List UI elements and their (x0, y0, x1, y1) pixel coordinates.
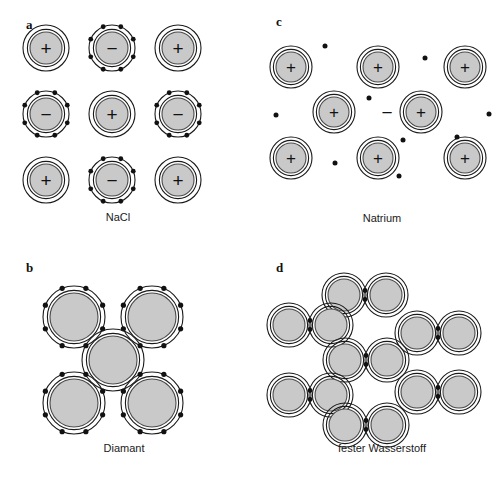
h2-molecule-right-lower-bond-electron-1 (436, 385, 441, 390)
carbon-top-left-electron-5 (60, 343, 65, 348)
panel-c-letter: c (276, 14, 282, 29)
carbon-top-right-electron-1 (161, 286, 166, 291)
carbon-bottom-left-electron-5 (60, 429, 65, 434)
cation-1: + (23, 25, 69, 71)
panel-c-caption: Natrium (363, 212, 402, 224)
sodium-ion-8: + (444, 137, 486, 179)
carbon-top-left-electron-2 (100, 303, 105, 308)
sodium-ion-7: + (357, 137, 399, 179)
cation-3-charge-label: + (106, 104, 117, 125)
panel-c-free-electron-4 (367, 96, 372, 101)
anion-1-electron-8 (101, 24, 106, 29)
carbon-top-left-electron-1 (83, 286, 88, 291)
h2-molecule-center-bond-electron-2 (364, 362, 369, 367)
carbon-top-left-electron-7 (43, 303, 48, 308)
anion-1-electron-6 (88, 54, 93, 59)
h2-molecule-right-upper-bond-electron-1 (436, 326, 441, 331)
carbon-top-right-electron-8 (138, 286, 143, 291)
h2-molecule-left-lower-bond-electron-2 (308, 397, 313, 402)
h2-molecule-bottom-center-bond-electron-1 (364, 418, 369, 423)
sodium-ion-6: + (270, 137, 312, 179)
carbon-bottom-left-electron-3 (100, 412, 105, 417)
cation-4-charge-label: + (40, 170, 51, 191)
anion-4-electron-8 (101, 156, 106, 161)
anion-4-charge-label: − (106, 170, 117, 191)
sodium-ion-6-charge-label: + (286, 149, 296, 168)
anion-3-electron-6 (154, 120, 159, 125)
anion-1-electron-1 (118, 24, 123, 29)
carbon-top-left-core (50, 293, 98, 341)
panel-b-letter: b (26, 260, 33, 275)
carbon-bottom-left-electron-6 (43, 412, 48, 417)
carbon-bottom-left-electron-1 (83, 372, 88, 377)
anion-2-electron-3 (65, 120, 70, 125)
carbon-top-right-electron-3 (178, 326, 183, 331)
anion-2-electron-8 (35, 90, 40, 95)
figure-root: a+−+−+−+−+NaClbDiamantc++++++++−Natriumd… (0, 0, 504, 490)
anion-2-electron-5 (35, 133, 40, 138)
sodium-ion-1-charge-label: + (286, 58, 296, 77)
h2-molecule-center-left-core (329, 344, 361, 376)
h2-molecule-top-center-bond-electron-2 (363, 297, 368, 302)
sodium-ion-5: + (400, 91, 442, 133)
carbon-bottom-left-electron-2 (100, 389, 105, 394)
carbon-bottom-right-electron-7 (121, 389, 126, 394)
h2-molecule-left-lower-bond-electron-1 (308, 388, 313, 393)
h2-molecule-left-upper-left-core (273, 309, 305, 341)
anion-4-electron-1 (118, 156, 123, 161)
anion-1-electron-3 (131, 54, 136, 59)
h2-molecule-top-center-bond-electron-1 (363, 288, 368, 293)
anion-3-electron-1 (184, 90, 189, 95)
sodium-ion-2: + (357, 46, 399, 88)
carbon-top-left (43, 286, 105, 348)
h2-molecule-left-upper-bond-electron-1 (308, 318, 313, 323)
h2-molecule-top-center-right-core (370, 279, 402, 311)
anion-4-electron-7 (88, 169, 93, 174)
anion-2-electron-4 (52, 133, 57, 138)
cation-2: + (155, 25, 201, 71)
panel-c-free-electron-2 (423, 56, 428, 61)
anion-1-electron-4 (118, 67, 123, 72)
h2-molecule-left-upper-bond-electron-2 (308, 327, 313, 332)
cation-3: + (89, 91, 135, 137)
anion-1-charge-label: − (106, 38, 117, 59)
carbon-bottom-left-electron-4 (83, 429, 88, 434)
panel-c-free-electron-3 (274, 113, 279, 118)
carbon-bottom-left (43, 372, 105, 434)
anion-4-electron-5 (101, 199, 106, 204)
sodium-ion-4: + (313, 91, 355, 133)
free-negative-charge: − (381, 102, 392, 123)
cation-2-charge-label: + (172, 38, 183, 59)
carbon-top-right (121, 286, 183, 348)
carbon-bottom-right-electron-4 (161, 429, 166, 434)
anion-2-charge-label: − (40, 104, 51, 125)
anion-1-electron-7 (88, 37, 93, 42)
carbon-top-right-electron-4 (161, 343, 166, 348)
anion-3-electron-2 (197, 103, 202, 108)
carbon-bottom-left-electron-8 (60, 372, 65, 377)
carbon-bottom-right (121, 372, 183, 434)
h2-molecule-right-upper-bond-electron-2 (436, 335, 441, 340)
h2-molecule-bottom-center-right-core (371, 409, 403, 441)
carbon-top-left-electron-6 (43, 326, 48, 331)
h2-molecule-right-lower-left-core (401, 376, 433, 408)
sodium-ion-5-charge-label: + (416, 103, 426, 122)
sodium-ion-1: + (270, 46, 312, 88)
anion-4-electron-3 (131, 186, 136, 191)
h2-molecule-left-upper-right-core (315, 309, 347, 341)
carbon-top-right-core (128, 293, 176, 341)
h2-molecule-right-upper-left-core (401, 317, 433, 349)
carbon-top-right-electron-2 (178, 303, 183, 308)
anion-4-electron-2 (131, 169, 136, 174)
carbon-bottom-right-electron-1 (161, 372, 166, 377)
anion-3-electron-3 (197, 120, 202, 125)
panel-a: a+−+−+−+−+NaCl (22, 17, 201, 223)
carbon-center-core (89, 336, 137, 384)
h2-molecule-right-lower-bond-electron-2 (436, 394, 441, 399)
panel-d-caption: fester Wasserstoff (338, 442, 427, 454)
panel-c-free-electron-8 (397, 174, 402, 179)
sodium-ion-2-charge-label: + (373, 58, 383, 77)
h2-molecule-left-lower-left-core (273, 379, 305, 411)
panel-c-free-electron-7 (401, 138, 406, 143)
carbon-bottom-right-electron-2 (178, 389, 183, 394)
